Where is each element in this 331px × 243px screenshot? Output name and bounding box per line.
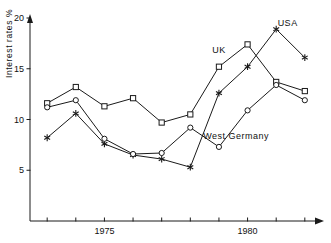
data-point-square [159,120,164,125]
y-tick-label: 10 [14,115,24,125]
y-tick-label: 5 [19,165,24,175]
x-tick-label: 1980 [238,226,258,236]
data-point-circle [245,108,250,113]
data-point-circle [216,144,221,149]
x-tick-label: 1975 [94,226,114,236]
interest-rates-chart: 5101520 19751980 Interest rates % UKUSAW… [0,0,331,243]
y-axis-title: Interest rates % [4,9,14,78]
chart-canvas: 5101520 19751980 Interest rates % UKUSAW… [0,0,331,243]
data-point-square [216,64,221,69]
data-point-circle [274,82,279,87]
series-label-usa: USA [278,18,298,28]
y-tick-label: 15 [14,64,24,74]
series-label-west-germany: West Germany [203,131,269,141]
data-point-circle [73,98,78,103]
data-point-square [302,88,307,93]
y-tick-label: 20 [14,13,24,23]
data-point-circle [130,151,135,156]
data-point-circle [302,98,307,103]
data-point-square [73,84,78,89]
data-point-circle [45,105,50,110]
data-point-square [188,112,193,117]
data-point-circle [188,125,193,130]
data-point-circle [159,150,164,155]
data-point-square [130,96,135,101]
series-label-uk: UK [212,45,226,55]
data-point-square [245,42,250,47]
data-point-square [102,104,107,109]
data-point-circle [102,136,107,141]
